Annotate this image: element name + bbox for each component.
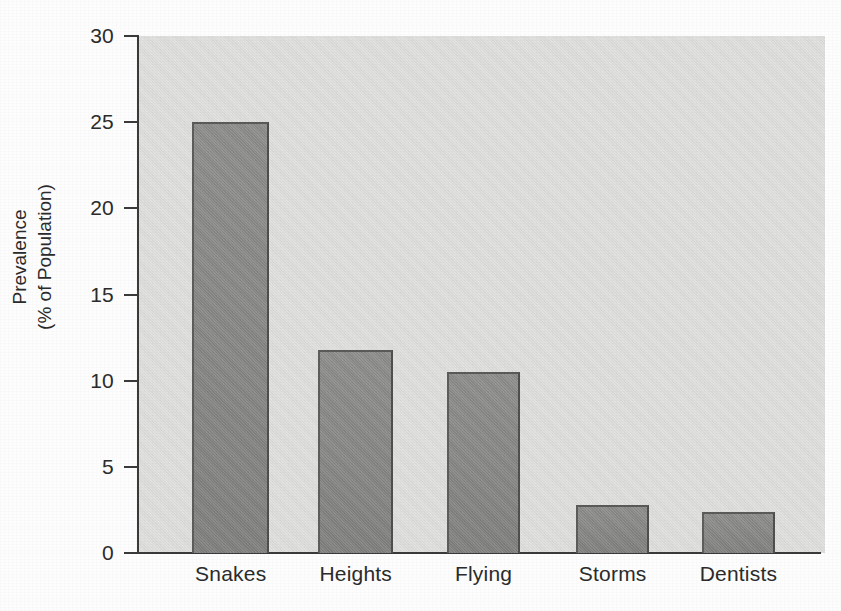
- bar-snakes: [192, 122, 269, 553]
- bar-flying: [447, 372, 520, 553]
- y-tick-label: 30: [78, 25, 114, 46]
- y-tick-mark: [124, 294, 138, 296]
- y-axis-title: Prevalence (% of Population): [7, 147, 57, 367]
- y-tick-mark: [124, 207, 138, 209]
- bar-dentists: [702, 512, 775, 553]
- x-axis-labels: SnakesHeightsFlyingStormsDentists: [138, 561, 825, 601]
- x-axis-label-dentists: Dentists: [658, 561, 818, 587]
- y-tick-mark: [124, 380, 138, 382]
- y-tick-mark: [124, 35, 138, 37]
- y-tick-mark: [124, 552, 138, 554]
- y-tick-label: 20: [78, 197, 114, 218]
- y-tick-label: 25: [78, 111, 114, 132]
- y-tick-label: 15: [78, 284, 114, 305]
- bars-layer: [138, 36, 825, 553]
- bar-heights: [318, 350, 393, 553]
- y-tick-label: 0: [78, 542, 114, 563]
- y-tick-mark: [124, 121, 138, 123]
- y-tick-mark: [124, 466, 138, 468]
- y-tick-label: 10: [78, 370, 114, 391]
- bar-storms: [576, 505, 649, 553]
- bar-chart-figure: 051015202530 Prevalence (% of Population…: [0, 0, 841, 611]
- y-axis-title-line-1: Prevalence: [7, 147, 32, 367]
- y-axis-title-line-2: (% of Population): [32, 147, 57, 367]
- y-tick-label: 5: [78, 456, 114, 477]
